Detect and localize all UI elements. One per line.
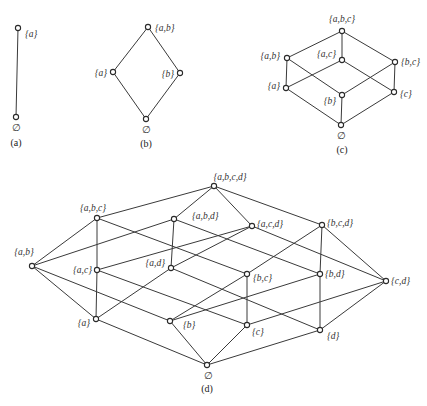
- node-d-ad: [168, 265, 173, 270]
- edge-b-e-b: [146, 73, 180, 119]
- node-a-e: [13, 114, 18, 119]
- label-d-ad: {a,d}: [146, 258, 166, 268]
- label-d-ab: {a,b}: [14, 247, 34, 257]
- edge-c-e-b: [341, 95, 342, 125]
- label-c-ab: {a,b}: [261, 51, 281, 61]
- edges-layer: [16, 27, 395, 365]
- edge-d-acd-abcd: [214, 186, 252, 226]
- label-d-bd: {b,d}: [325, 269, 345, 279]
- caption-a: (a): [10, 137, 21, 149]
- label-b-e: ∅: [142, 124, 151, 135]
- label-c-bc: {b,c}: [401, 57, 420, 67]
- node-d-cd: [383, 278, 388, 283]
- edge-c-b-bc: [342, 62, 395, 95]
- edge-c-c-ac: [342, 60, 394, 92]
- node-b-ab: [145, 24, 150, 29]
- edge-d-b-bd: [170, 274, 320, 321]
- edge-d-d-cd: [320, 281, 386, 330]
- node-c-bc: [392, 59, 397, 64]
- node-c-abc: [339, 28, 344, 33]
- label-c-c: {c}: [400, 89, 412, 99]
- edge-d-ab-abc: [32, 218, 97, 266]
- edge-c-e-a: [286, 88, 341, 125]
- node-d-d: [317, 327, 322, 332]
- label-d-acd: {a,c,d}: [257, 219, 283, 229]
- node-c-e: [338, 122, 343, 127]
- label-c-b: {b}: [324, 96, 337, 106]
- edge-d-bc-bcd: [247, 225, 322, 274]
- edge-d-b-bc: [170, 274, 247, 321]
- edge-c-c-bc: [394, 62, 395, 92]
- label-d-abcd: {a,b,c,d}: [213, 172, 246, 182]
- label-d-bc: {b,c}: [253, 273, 272, 283]
- edge-c-a-ab: [286, 58, 287, 88]
- label-d-abd: {a,b,d}: [192, 211, 219, 221]
- edge-d-c-cd: [247, 281, 386, 325]
- node-d-ac: [94, 267, 99, 272]
- node-d-bcd: [319, 222, 324, 227]
- caption-d: (d): [201, 383, 213, 395]
- label-b-ab: {a,b}: [155, 23, 175, 33]
- label-d-d: {d}: [327, 331, 340, 341]
- label-b-b: {b}: [162, 69, 175, 79]
- edge-c-e-c: [341, 92, 394, 125]
- node-d-c: [244, 322, 249, 327]
- hasse-diagrams-canvas: {a}∅{a,b}{a}{b}∅{a,b,c}{a,b}{a,c}{b,c}{a…: [0, 0, 427, 406]
- edge-d-b-ab: [32, 266, 170, 321]
- node-b-a: [110, 69, 115, 74]
- node-d-bc: [244, 271, 249, 276]
- node-d-e: [204, 362, 209, 367]
- edge-b-e-a: [113, 72, 146, 119]
- label-d-a: {a}: [78, 318, 91, 328]
- edge-d-c-ac: [97, 270, 247, 325]
- edge-a-e-a: [16, 28, 18, 117]
- node-d-bd: [317, 271, 322, 276]
- label-a-a: {a}: [25, 29, 38, 39]
- label-a-e: ∅: [12, 122, 21, 133]
- node-c-a: [283, 85, 288, 90]
- label-d-c: {c}: [252, 327, 264, 337]
- node-d-a: [93, 316, 98, 321]
- label-c-a: {a}: [268, 81, 281, 91]
- edge-c-bc-abc: [342, 31, 395, 62]
- node-d-ab: [29, 263, 34, 268]
- caption-b: (b): [140, 138, 152, 150]
- node-a-a: [15, 25, 20, 30]
- label-d-cd: {c,d}: [391, 276, 410, 286]
- caption-c: (c): [336, 144, 347, 156]
- labels-layer: {a}∅{a,b}{a}{b}∅{a,b,c}{a,b}{a,c}{b,c}{a…: [12, 14, 421, 381]
- node-d-acd: [249, 223, 254, 228]
- label-d-abc: {a,b,c}: [80, 203, 106, 213]
- node-c-ab: [284, 55, 289, 60]
- label-c-e: ∅: [337, 130, 346, 141]
- edge-d-ad-acd: [171, 226, 252, 268]
- label-d-bcd: {b,c,d}: [327, 218, 353, 228]
- edge-d-a-ac: [96, 270, 97, 319]
- edge-d-bd-bcd: [320, 225, 322, 274]
- nodes-layer: [13, 24, 397, 367]
- node-c-b: [339, 92, 344, 97]
- node-d-abc: [94, 215, 99, 220]
- edge-b-a-ab: [113, 27, 148, 72]
- node-b-b: [177, 70, 182, 75]
- edge-b-b-ab: [148, 27, 180, 73]
- label-d-ac: {a,c}: [73, 265, 92, 275]
- node-c-ac: [339, 57, 344, 62]
- edge-c-a-ac: [286, 60, 342, 88]
- edge-c-b-ab: [287, 58, 342, 95]
- node-b-e: [143, 116, 148, 121]
- label-c-ac: {a,c}: [317, 49, 336, 59]
- label-d-b: {b}: [183, 320, 196, 330]
- label-c-abc: {a,b,c}: [329, 14, 355, 24]
- label-d-e: ∅: [204, 370, 213, 381]
- captions-layer: (a) (b) (c) (d): [10, 137, 347, 395]
- edge-d-ad-abd: [171, 219, 174, 268]
- node-c-c: [391, 89, 396, 94]
- node-d-abcd: [211, 183, 216, 188]
- node-d-b: [167, 318, 172, 323]
- edge-d-ac-acd: [97, 226, 252, 270]
- label-b-a: {a}: [95, 68, 108, 78]
- node-d-abd: [171, 216, 176, 221]
